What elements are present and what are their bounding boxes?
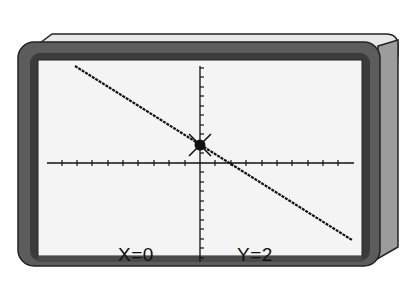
calculator-graphic [0,0,420,300]
graphing-calculator-screen: X=0 Y=2 [0,0,420,300]
x-readout: X=0 [118,244,154,266]
trace-point [195,140,206,151]
y-readout: Y=2 [237,244,273,266]
